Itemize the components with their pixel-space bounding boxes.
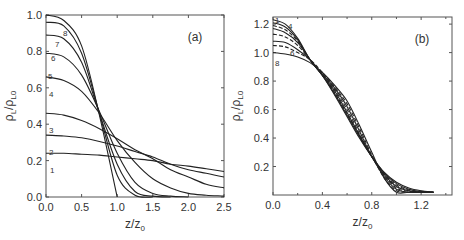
panel-label: (b) xyxy=(415,32,430,46)
curve-label: 8 xyxy=(275,59,280,68)
x-tick-label: 1.2 xyxy=(413,199,428,211)
x-axis-label: z/z0 xyxy=(353,215,373,231)
curve-label: 4 xyxy=(49,90,54,99)
y-tick-label: 0.0 xyxy=(27,191,42,203)
curve-label: 8 xyxy=(63,29,68,38)
curve-3 xyxy=(46,113,224,188)
y-tick-label: 0.4 xyxy=(27,118,42,130)
x-tick-label: 0.8 xyxy=(364,199,379,211)
y-axis-label: ρL/ρL0 xyxy=(229,90,245,121)
y-tick-label: 0.2 xyxy=(254,161,269,173)
curve-4 xyxy=(273,28,434,192)
curve-6 xyxy=(46,35,171,197)
x-tick-label: 1.5 xyxy=(145,201,160,213)
y-tick-label: 0.8 xyxy=(254,75,269,87)
x-tick-label: 0.5 xyxy=(74,201,89,213)
y-tick-label: 1.0 xyxy=(254,47,269,59)
y-tick-label: 0.2 xyxy=(27,155,42,167)
panel-label: (a) xyxy=(188,30,203,44)
curve-7 xyxy=(46,22,153,197)
figure: 0.00.51.01.52.02.50.00.20.40.60.81.01234… xyxy=(0,0,464,240)
x-tick-label: 0.4 xyxy=(315,199,330,211)
y-tick-label: 0.6 xyxy=(254,104,269,116)
curve-label: 7 xyxy=(55,40,60,49)
y-axis-label: ρL/ρL0 xyxy=(2,90,18,121)
curve-label: 4 xyxy=(288,22,293,31)
y-tick-label: 0.6 xyxy=(27,82,42,94)
x-axis-label: z/z0 xyxy=(125,217,145,233)
y-tick-label: 0.4 xyxy=(254,132,269,144)
curve-label: 6 xyxy=(51,54,56,63)
panel-b-plot: 0.00.40.81.20.20.40.60.81.01.21468(b)z/z… xyxy=(229,16,452,231)
curve-label: 1 xyxy=(50,166,55,175)
panel-a-plot: 0.00.51.01.52.02.50.00.20.40.60.81.01234… xyxy=(2,9,232,233)
curves xyxy=(273,20,434,193)
x-tick-label: 2.5 xyxy=(216,201,231,213)
curve-label: 2 xyxy=(49,148,54,157)
x-tick-label: 1.0 xyxy=(110,201,125,213)
y-tick-label: 0.8 xyxy=(27,45,42,57)
curve-3 xyxy=(273,26,434,193)
curve-label: 6 xyxy=(290,49,295,58)
curve-label: 3 xyxy=(49,126,54,135)
x-tick-label: 0.0 xyxy=(265,199,280,211)
curve-label: 1 xyxy=(275,16,280,25)
y-tick-label: 1.0 xyxy=(27,9,42,21)
curve-2 xyxy=(46,135,224,177)
curve-label: 5 xyxy=(48,72,53,81)
x-tick-label: 2.0 xyxy=(181,201,196,213)
curve-2 xyxy=(273,23,434,193)
y-tick-label: 1.2 xyxy=(254,18,269,30)
curve-6 xyxy=(273,41,434,192)
